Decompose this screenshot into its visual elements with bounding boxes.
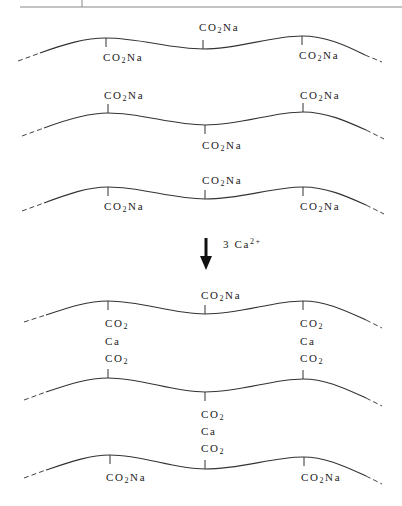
- carboxylate-label: CO2Na: [103, 51, 143, 65]
- calcium-bridge-right: CO2 Ca CO2: [300, 317, 324, 366]
- reaction-arrow: 3 Ca2+: [200, 237, 262, 270]
- polymer-chain-5: [24, 369, 382, 406]
- svg-text:Ca: Ca: [300, 335, 315, 347]
- svg-text:CO2: CO2: [105, 317, 129, 331]
- svg-text:CO2: CO2: [300, 317, 324, 331]
- carboxylate-label: CO2Na: [199, 21, 239, 35]
- calcium-bridge-center: CO2 Ca CO2: [201, 408, 225, 456]
- polymer-chain-2: CO2Na CO2Na CO2Na: [22, 89, 384, 153]
- carboxylate-label: CO2Na: [300, 89, 340, 103]
- polymer-chain-1: CO2Na CO2Na CO2Na: [18, 21, 382, 65]
- reagent-label: 3 Ca2+: [223, 237, 262, 250]
- svg-text:CO2: CO2: [201, 442, 225, 456]
- polymer-chain-6: CO2Na CO2Na: [24, 455, 382, 485]
- carboxylate-label: CO2Na: [104, 200, 144, 214]
- svg-text:Ca: Ca: [105, 335, 120, 347]
- carboxylate-label: CO2Na: [104, 89, 144, 103]
- calcium-bridge-left: CO2 Ca CO2: [105, 317, 129, 366]
- carboxylate-label: CO2Na: [301, 471, 341, 485]
- carboxylate-label: CO2Na: [299, 49, 339, 63]
- crosslinking-diagram: CO2Na CO2Na CO2Na CO2Na CO2Na CO2Na CO2N…: [0, 0, 402, 506]
- carboxylate-label: CO2Na: [201, 289, 241, 303]
- carboxylate-label: CO2Na: [202, 174, 242, 188]
- svg-text:CO2: CO2: [201, 408, 225, 422]
- polymer-chain-4: CO2Na: [24, 289, 382, 328]
- svg-text:Ca: Ca: [201, 425, 216, 437]
- carboxylate-label: CO2Na: [106, 471, 146, 485]
- carboxylate-label: CO2Na: [202, 139, 242, 153]
- svg-text:CO2: CO2: [300, 352, 324, 366]
- carboxylate-label: CO2Na: [300, 200, 340, 214]
- svg-text:CO2: CO2: [105, 352, 129, 366]
- polymer-chain-3: CO2Na CO2Na CO2Na: [22, 174, 384, 214]
